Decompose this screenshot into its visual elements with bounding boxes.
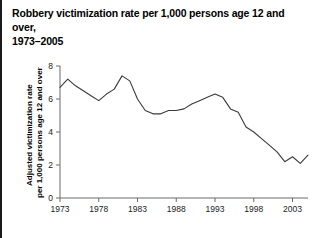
y-tick-label: 0: [48, 193, 53, 203]
y-axis-ticks: 02468: [48, 61, 60, 203]
data-series-line: [60, 76, 308, 163]
x-tick-label: 2003: [283, 204, 302, 214]
y-tick-label: 4: [48, 127, 53, 137]
chart-card: Robbery victimization rate per 1,000 per…: [0, 0, 315, 238]
y-axis-title-line-2: per 1,000 persons age 12 and over: [35, 67, 44, 198]
x-tick-label: 1998: [244, 204, 263, 214]
x-tick-label: 1993: [206, 204, 225, 214]
x-tick-label: 1978: [89, 204, 108, 214]
y-tick-label: 6: [48, 94, 53, 104]
y-axis-title: Adjusted victimization rate per 1,000 pe…: [25, 67, 44, 198]
y-tick-label: 2: [48, 160, 53, 170]
line-chart: 02468 1973197819831988199319982003 Adjus…: [2, 0, 315, 238]
x-tick-label: 1983: [128, 204, 147, 214]
x-axis-ticks: 1973197819831988199319982003: [51, 198, 303, 214]
chart-plot-area: 02468 1973197819831988199319982003 Adjus…: [2, 0, 315, 238]
y-tick-label: 8: [48, 61, 53, 71]
x-tick-label: 1988: [167, 204, 186, 214]
y-axis-title-line-1: Adjusted victimization rate: [25, 84, 34, 186]
x-tick-label: 1973: [51, 204, 70, 214]
